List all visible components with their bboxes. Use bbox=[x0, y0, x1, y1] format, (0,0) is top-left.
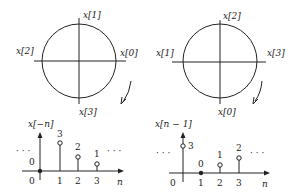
left-n-axis-arrow-icon bbox=[118, 169, 124, 174]
right-ellipsis-left: · · · bbox=[156, 148, 170, 158]
right-circle-group: x[2] x[1] x[3] x[0] bbox=[156, 11, 285, 117]
left-label-top: x[1] bbox=[83, 10, 101, 20]
left-tick-1: 1 bbox=[57, 176, 63, 186]
left-ellipsis-right: · · · bbox=[107, 146, 121, 156]
left-rotation-arrow-icon bbox=[123, 81, 131, 102]
left-ellipsis-left: · · · bbox=[16, 146, 30, 156]
right-sample-n1 bbox=[199, 171, 203, 175]
left-value-n2: 2 bbox=[75, 142, 81, 152]
right-tick-3: 3 bbox=[236, 178, 242, 188]
right-sample-n0 bbox=[181, 144, 185, 148]
right-tick-2: 2 bbox=[217, 178, 223, 188]
right-stem-plot: x[n − 1] · · · · · · 3 0 1 2 0 1 2 3 n bbox=[155, 119, 270, 189]
left-label-bottom: x[3] bbox=[79, 107, 97, 117]
left-sample-n3 bbox=[95, 162, 99, 166]
left-xlabel: n bbox=[117, 177, 123, 187]
right-value-n3: 2 bbox=[236, 143, 242, 153]
right-label-right: x[3] bbox=[267, 48, 285, 58]
left-y-axis-arrow-icon bbox=[38, 132, 43, 138]
left-sample-n0 bbox=[38, 169, 42, 173]
right-tick-1: 1 bbox=[198, 178, 204, 188]
right-value-n0: 3 bbox=[188, 141, 194, 151]
right-xlabel: n bbox=[262, 179, 268, 189]
left-ylabel: x[−n] bbox=[28, 119, 54, 129]
right-sample-n2 bbox=[218, 163, 222, 167]
left-sample-n1 bbox=[58, 141, 62, 145]
circular-shift-diagram: x[1] x[2] x[0] x[3] x[2] x[1] x[3] x[0] … bbox=[0, 0, 295, 196]
left-value-n3: 1 bbox=[94, 149, 100, 159]
left-label-right: x[0] bbox=[120, 48, 138, 58]
left-value-n0: 0 bbox=[29, 157, 35, 167]
left-tick-0: 0 bbox=[29, 176, 35, 186]
right-value-n2: 1 bbox=[217, 150, 223, 160]
right-label-top: x[2] bbox=[223, 11, 241, 21]
left-stem-plot: x[−n] · · · · · · 0 3 2 1 0 1 2 3 n bbox=[16, 119, 124, 187]
left-sample-n2 bbox=[76, 155, 80, 159]
right-label-left: x[1] bbox=[156, 48, 174, 58]
left-label-left: x[2] bbox=[16, 46, 34, 56]
right-tick-0: 0 bbox=[170, 178, 176, 188]
left-circle-group: x[1] x[2] x[0] x[3] bbox=[16, 10, 138, 117]
left-tick-3: 3 bbox=[94, 176, 100, 186]
right-ellipsis-right: · · · bbox=[250, 148, 264, 158]
right-ylabel: x[n − 1] bbox=[155, 119, 192, 129]
right-rotation-arrow-icon bbox=[255, 81, 262, 101]
right-y-axis-arrow-icon bbox=[181, 132, 186, 138]
right-sample-n3 bbox=[237, 156, 241, 160]
right-value-n1: 0 bbox=[198, 159, 204, 169]
left-value-n1: 3 bbox=[57, 129, 63, 139]
right-n-axis-arrow-icon bbox=[264, 171, 270, 176]
right-label-bottom: x[0] bbox=[218, 107, 236, 117]
left-tick-2: 2 bbox=[75, 176, 81, 186]
